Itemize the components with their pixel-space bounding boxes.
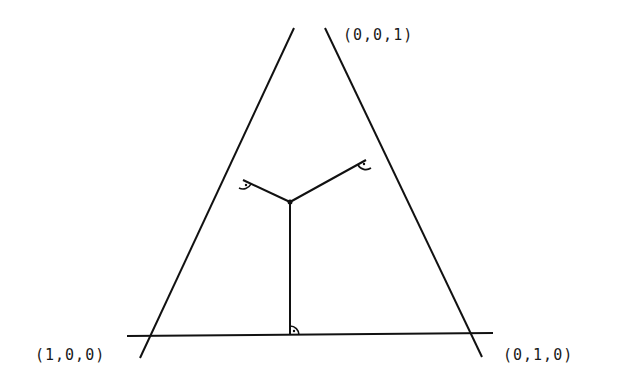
triangle-diagram — [0, 0, 619, 387]
right-edge-line — [325, 28, 482, 357]
vertex-label-top: (0,0,1) — [343, 26, 413, 44]
base-line — [127, 333, 493, 336]
vertex-label-right: (0,1,0) — [503, 346, 573, 364]
perpendicular-to-left-edge — [243, 180, 290, 202]
interior-point-dot — [288, 200, 293, 205]
vertex-label-left: (1,0,0) — [35, 346, 105, 364]
perpendicular-to-right-edge — [290, 160, 366, 202]
right-angle-mark-left — [239, 184, 251, 189]
